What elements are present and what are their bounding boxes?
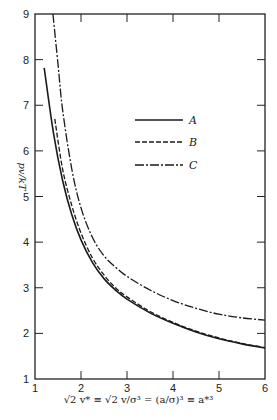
x-tick-label: 2 <box>78 382 84 394</box>
y-axis-label: pv/kT <box>17 162 28 191</box>
y-tick-label: 4 <box>23 236 29 248</box>
y-tick-label: 8 <box>23 54 29 66</box>
legend-label-c: C <box>189 159 198 172</box>
legend-label-a: A <box>188 114 197 127</box>
x-tick-label: 1 <box>32 382 38 394</box>
y-tick-label: 3 <box>23 282 29 294</box>
legend-label-b: B <box>188 136 197 149</box>
y-tick-label: 5 <box>23 191 29 203</box>
x-axis-label: √2 v* ≡ √2 v/σ³ = (a/σ)³ ≡ a*³ <box>0 394 277 405</box>
x-tick-label: 3 <box>124 382 130 394</box>
y-tick-label: 2 <box>23 327 29 339</box>
curve-b <box>55 119 265 348</box>
y-tick-label: 1 <box>23 373 29 385</box>
curve-c <box>53 14 265 320</box>
x-tick-label: 4 <box>170 382 176 394</box>
y-tick-label: 7 <box>23 99 29 111</box>
curve-a <box>44 68 265 348</box>
y-tick-label: 6 <box>23 145 29 157</box>
chart: 123456123456789pv/kTABC <box>0 0 277 420</box>
y-tick-label: 9 <box>23 8 29 20</box>
x-tick-label: 6 <box>262 382 268 394</box>
x-tick-label: 5 <box>216 382 222 394</box>
